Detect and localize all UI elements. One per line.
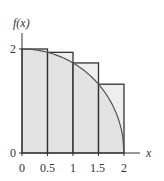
y-tick-0: 0 xyxy=(10,146,16,160)
riemann-chart: f(x) x 2 0 0 0.5 1 1.5 2 xyxy=(0,0,164,181)
plot-area xyxy=(19,33,140,156)
riemann-rect-1 xyxy=(48,52,74,153)
x-tick-1: 1 xyxy=(70,161,76,175)
y-axis-label: f(x) xyxy=(13,16,30,30)
x-tick-0: 0 xyxy=(19,161,25,175)
y-tick-2: 2 xyxy=(10,42,16,56)
x-tick-2: 2 xyxy=(121,161,127,175)
x-tick-1.5: 1.5 xyxy=(90,161,105,175)
x-tick-0.5: 0.5 xyxy=(40,161,55,175)
riemann-rect-0 xyxy=(22,49,48,153)
riemann-rect-2 xyxy=(73,63,99,153)
x-axis-label: x xyxy=(145,146,152,160)
riemann-rect-3 xyxy=(99,84,125,153)
